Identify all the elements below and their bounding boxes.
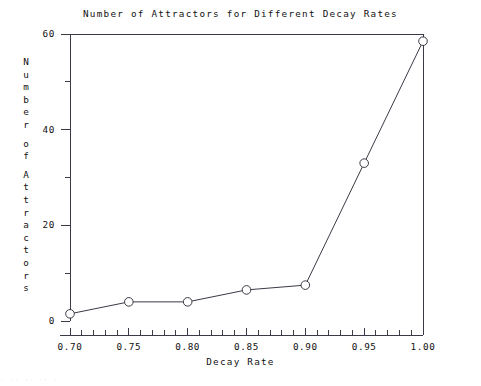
y-axis-label-char: r — [18, 207, 34, 220]
data-point-marker — [360, 159, 369, 168]
series-line — [70, 41, 423, 314]
plot-area — [0, 0, 481, 386]
x-tick-label: 0.90 — [275, 341, 335, 352]
y-axis-label-char: o — [18, 257, 34, 270]
y-axis-label-char: t — [18, 181, 34, 194]
x-tick-label: 0.70 — [40, 341, 100, 352]
data-point-marker — [242, 286, 251, 295]
y-tick-label: 0 — [15, 315, 55, 326]
y-tick-label: 60 — [15, 28, 55, 39]
data-point-marker — [419, 37, 428, 46]
data-point-marker — [66, 310, 75, 319]
y-axis-label-char: b — [18, 94, 34, 107]
data-point-marker — [301, 281, 310, 290]
y-axis-label-char: s — [18, 282, 34, 295]
data-point-markers — [66, 37, 428, 318]
data-line — [70, 41, 423, 314]
y-axis-label: NumberofAttractors — [18, 56, 34, 295]
data-point-marker — [125, 298, 134, 307]
y-tick-label: 20 — [15, 219, 55, 230]
caption-artifact: · ·· ·· ·· · — [0, 376, 481, 386]
y-axis-label-char: e — [18, 106, 34, 119]
x-tick-label: 0.95 — [334, 341, 394, 352]
x-major-ticks — [70, 328, 423, 335]
y-tick-label: 40 — [15, 124, 55, 135]
chart-figure: Number of Attractors for Different Decay… — [0, 0, 481, 386]
y-axis-label-char: f — [18, 150, 34, 163]
y-axis-label-char: c — [18, 232, 34, 245]
y-axis-label-char: r — [18, 270, 34, 283]
y-axis-label-char: t — [18, 194, 34, 207]
y-axis-label-char: m — [18, 81, 34, 94]
axis-lines — [60, 34, 423, 335]
chart-title: Number of Attractors for Different Decay… — [0, 8, 481, 19]
data-point-marker — [183, 298, 192, 307]
y-axis-label-char: o — [18, 138, 34, 151]
y-axis-label-char: t — [18, 244, 34, 257]
y-axis-label-char: A — [18, 169, 34, 182]
y-axis-label-char: u — [18, 69, 34, 82]
x-tick-label: 0.85 — [217, 341, 277, 352]
x-tick-label: 1.00 — [393, 341, 453, 352]
x-tick-label: 0.80 — [158, 341, 218, 352]
y-axis-label-char: N — [18, 56, 34, 69]
y-minor-ticks — [65, 82, 70, 273]
x-tick-label: 0.75 — [99, 341, 159, 352]
x-axis-label: Decay Rate — [0, 356, 481, 367]
